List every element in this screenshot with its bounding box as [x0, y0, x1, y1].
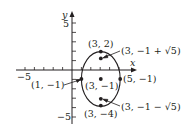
label-covertex-right: (5, −1) [123, 73, 157, 84]
label-focus-bottom: (3, −1 − √5) [121, 101, 181, 112]
point-covertex-right [118, 77, 122, 81]
label-focus-top: (3, −1 + √5) [121, 45, 181, 56]
plot-canvas: x y −5 5 −5 (3, 2) (3, −1 + √5) [0, 0, 193, 129]
arrowhead-icon [76, 80, 80, 83]
x-tick-label-neg5: −5 [17, 71, 31, 82]
x-axis-arrow-icon [131, 68, 137, 73]
y-tick-label-neg5: −5 [57, 111, 71, 122]
point-vertex-top [99, 50, 103, 54]
arrowhead-icon [103, 55, 108, 58]
y-axis-arrow-icon [70, 11, 75, 17]
arrowhead-icon [103, 99, 108, 102]
label-vertex-bottom: (3, −4) [84, 108, 118, 119]
x-axis-label: x [130, 57, 136, 68]
point-vertex-bottom [99, 104, 103, 108]
ellipse-diagram: x y −5 5 −5 (3, 2) (3, −1 + √5) [0, 0, 193, 129]
label-center: (3, −1) [85, 80, 119, 91]
label-vertex-top: (3, 2) [88, 38, 114, 49]
y-tick-label-5: 5 [63, 18, 69, 29]
label-covertex-left: (1, −1) [31, 79, 65, 90]
points [80, 50, 123, 108]
